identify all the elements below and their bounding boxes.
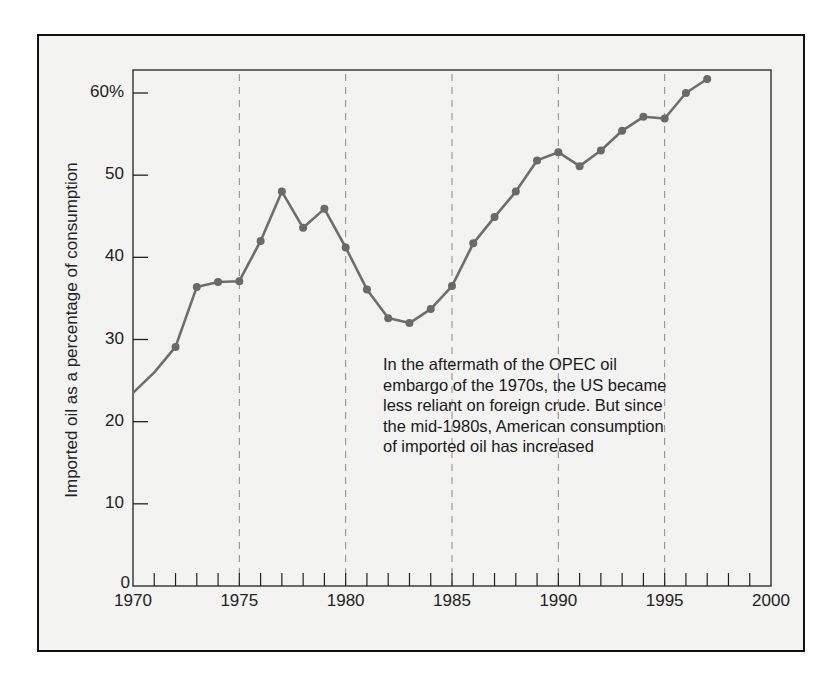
- annotation-line: In the aftermath of the OPEC oil: [383, 354, 713, 375]
- data-point: [597, 147, 605, 155]
- data-point: [342, 243, 350, 251]
- data-point: [278, 188, 286, 196]
- x-tick-label: 1980: [316, 591, 376, 611]
- x-tick-label: 1990: [528, 591, 588, 611]
- y-tick-label: 20: [74, 411, 124, 431]
- data-point: [214, 278, 222, 286]
- annotation-line: less reliant on foreign crude. But since: [383, 395, 713, 416]
- data-point: [257, 237, 265, 245]
- data-point: [384, 314, 392, 322]
- data-point: [363, 285, 371, 293]
- y-tick-label: 50: [74, 164, 124, 184]
- x-tick-label: 1995: [635, 591, 695, 611]
- data-point: [554, 148, 562, 156]
- annotation-line: of imported oil has increased: [383, 436, 713, 457]
- data-point: [469, 239, 477, 247]
- y-tick-label: 40: [74, 246, 124, 266]
- annotation-line: embargo of the 1970s, the US became: [383, 375, 713, 396]
- y-tick-label: 30: [74, 329, 124, 349]
- data-point: [235, 277, 243, 285]
- data-point: [172, 343, 180, 351]
- data-point: [193, 283, 201, 291]
- data-point: [448, 282, 456, 290]
- data-point: [491, 213, 499, 221]
- data-point: [512, 188, 520, 196]
- data-point: [682, 89, 690, 97]
- data-point: [618, 127, 626, 135]
- data-point: [320, 205, 328, 213]
- annotation-line: the mid-1980s, American consumption: [383, 416, 713, 437]
- data-point: [533, 156, 541, 164]
- x-tick-label: 1985: [422, 591, 482, 611]
- data-point: [299, 224, 307, 232]
- x-tick-label: 1975: [209, 591, 269, 611]
- y-tick-label: 0: [80, 573, 130, 593]
- data-point: [427, 305, 435, 313]
- x-tick-label: 2000: [741, 591, 801, 611]
- data-point: [405, 319, 413, 327]
- chart-annotation: In the aftermath of the OPEC oil embargo…: [383, 354, 713, 457]
- data-point: [703, 75, 711, 83]
- data-line: [133, 79, 707, 393]
- y-tick-label: 60%: [74, 82, 124, 102]
- x-tick-label: 1970: [103, 591, 163, 611]
- data-point: [661, 114, 669, 122]
- y-tick-label: 10: [74, 493, 124, 513]
- data-point: [639, 113, 647, 121]
- data-point: [576, 162, 584, 170]
